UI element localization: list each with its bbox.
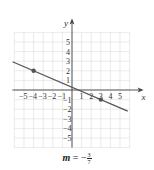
- x-tick-label: −4: [29, 92, 38, 101]
- x-tick-label: −2: [48, 92, 57, 101]
- slope-numerator: 3: [87, 152, 92, 159]
- y-tick-label: 2: [66, 67, 70, 76]
- x-tick-label: 4: [108, 92, 112, 101]
- slope-denominator: 7: [87, 159, 92, 165]
- slope-caption: m = −37: [0, 152, 154, 165]
- x-tick-label: −5: [19, 92, 28, 101]
- slope-equals: = −: [70, 152, 86, 163]
- y-tick-label: −2: [63, 105, 72, 114]
- data-point: [31, 69, 35, 73]
- x-tick-label: −3: [38, 92, 47, 101]
- y-tick-label: 3: [66, 57, 70, 66]
- y-tick-label: −1: [63, 96, 72, 105]
- coordinate-plot: xy−5−4−3−2−11234554321−1−2−3−4−5: [0, 0, 154, 170]
- y-tick-label: −3: [63, 115, 72, 124]
- y-tick-label: 1: [66, 76, 70, 85]
- data-point: [99, 97, 103, 101]
- y-tick-label: −5: [63, 134, 72, 143]
- x-tick-label: 1: [80, 92, 84, 101]
- y-axis-label: y: [63, 18, 68, 28]
- y-tick-label: −4: [63, 124, 72, 133]
- y-tick-label: 5: [66, 38, 70, 47]
- y-tick-label: 4: [66, 48, 70, 57]
- slope-fraction: 37: [87, 152, 92, 165]
- x-axis-label: x: [141, 92, 146, 102]
- x-tick-label: 5: [118, 92, 122, 101]
